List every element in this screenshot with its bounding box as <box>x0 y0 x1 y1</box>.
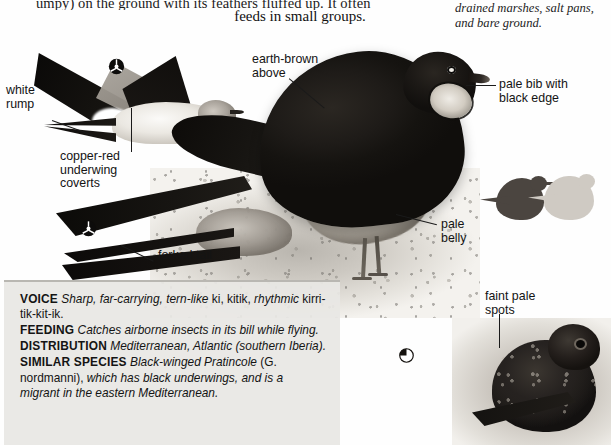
label-forked-tail: forked tail <box>158 249 212 263</box>
factbox-feeding-text: Catches airborne insects in its bill whi… <box>78 323 319 337</box>
factbox-similar-it-1: Black-winged Pratincole <box>130 355 257 369</box>
factbox-voice-it-1: Sharp, far-carrying, tern-like <box>61 292 208 306</box>
factbox-similar-species: SIMILAR SPECIES Black-winged Pratincole … <box>20 355 326 401</box>
factbox-distribution-key: DISTRIBUTION <box>20 339 107 353</box>
label-earth-brown-above: earth-brown above <box>252 53 318 80</box>
juvenile-bird-eye <box>576 340 585 348</box>
leader-line-pale-bib <box>466 85 496 86</box>
field-guide-page: umpy) on the ground with its feathers fl… <box>0 0 611 445</box>
factbox-voice-rom-1: ki, kitik, <box>212 292 251 306</box>
leader-line-copper-red <box>131 108 132 152</box>
body-text-line-2: feeds in small groups. <box>150 8 450 25</box>
factbox-feeding-key: FEEDING <box>20 323 74 337</box>
juvenile-bird-head <box>548 324 600 370</box>
pie-quarter-icon <box>399 348 414 363</box>
label-faint-pale-spots: faint pale spots <box>485 290 535 317</box>
flying-bird-bill <box>230 110 244 114</box>
three-spoke-circle-icon <box>108 58 125 75</box>
factbox-voice: VOICE Sharp, far-carrying, tern-like ki,… <box>20 292 326 323</box>
three-spoke-circle-icon <box>80 220 97 237</box>
factbox-feeding: FEEDING Catches airborne insects in its … <box>20 323 326 338</box>
factbox-voice-key: VOICE <box>20 292 58 306</box>
main-bird-eye <box>447 66 456 74</box>
label-copper-red-underwing: copper-red underwing coverts <box>60 150 120 191</box>
factbox-distribution-text: Mediterranean, Atlantic (southern Iberia… <box>110 339 326 353</box>
factbox-similar-key: SIMILAR SPECIES <box>20 355 127 369</box>
species-fact-box: VOICE Sharp, far-carrying, tern-like ki,… <box>4 280 340 445</box>
silhouette-light-head <box>578 174 595 189</box>
main-bird-foot-left <box>352 277 372 280</box>
label-pale-belly: pale belly <box>441 218 466 245</box>
main-bird-foot-right <box>368 273 388 276</box>
label-white-rump: white rump <box>6 84 35 111</box>
label-pale-bib: pale bib with black edge <box>499 78 568 105</box>
leader-line-faint-spots <box>499 314 500 348</box>
factbox-distribution: DISTRIBUTION Mediterranean, Atlantic (so… <box>20 339 326 354</box>
factbox-voice-it-2: rhythmic <box>254 292 299 306</box>
habitat-caption: drained marshes, salt pans, and bare gro… <box>455 1 603 30</box>
